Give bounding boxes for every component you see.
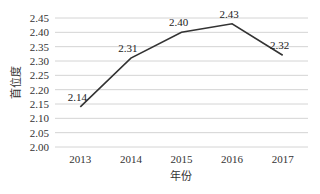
y-axis-title: 首位度 bbox=[9, 66, 23, 99]
y-tick-label: 2.30 bbox=[30, 55, 50, 67]
y-axis-ticks: 2.002.052.102.152.202.252.302.352.402.45 bbox=[30, 12, 50, 153]
data-label: 2.40 bbox=[169, 16, 189, 28]
data-label: 2.32 bbox=[270, 39, 289, 51]
x-tick-label: 2015 bbox=[171, 153, 194, 165]
x-tick-label: 2017 bbox=[272, 153, 295, 165]
y-tick-label: 2.10 bbox=[30, 112, 50, 124]
x-axis-ticks: 20132014201520162017 bbox=[69, 153, 294, 165]
series bbox=[80, 24, 282, 107]
line-chart: 2.002.052.102.152.202.252.302.352.402.45… bbox=[0, 0, 320, 194]
data-labels: 2.142.312.402.432.32 bbox=[68, 8, 290, 103]
x-tick-label: 2014 bbox=[120, 153, 143, 165]
y-tick-label: 2.05 bbox=[30, 127, 50, 139]
data-label: 2.43 bbox=[219, 8, 239, 20]
data-label: 2.31 bbox=[118, 42, 137, 54]
y-tick-label: 2.40 bbox=[30, 26, 50, 38]
series-line bbox=[80, 24, 282, 107]
y-tick-label: 2.45 bbox=[30, 12, 50, 24]
y-tick-label: 2.25 bbox=[30, 69, 50, 81]
x-tick-label: 2013 bbox=[69, 153, 92, 165]
y-tick-label: 2.20 bbox=[30, 84, 50, 96]
y-tick-label: 2.00 bbox=[30, 141, 50, 153]
gridlines bbox=[55, 18, 308, 147]
y-tick-label: 2.35 bbox=[30, 41, 50, 53]
x-axis-title: 年份 bbox=[170, 169, 192, 183]
data-label: 2.14 bbox=[68, 91, 88, 103]
x-tick-label: 2016 bbox=[221, 153, 244, 165]
y-tick-label: 2.15 bbox=[30, 98, 50, 110]
